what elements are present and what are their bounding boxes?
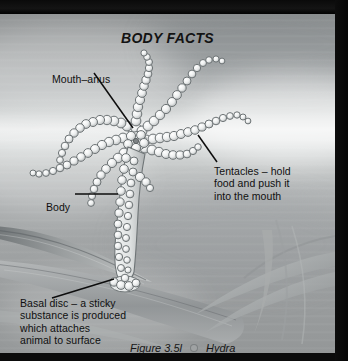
bullet-dot-icon <box>191 345 197 351</box>
label-body: Body <box>46 201 70 213</box>
frame-band-bottom <box>0 353 348 361</box>
label-tentacles: Tentacles – hold food and push it into t… <box>214 165 291 202</box>
frame-band-top <box>0 0 348 14</box>
frame-band-right <box>335 0 348 361</box>
figure-caption: Figure 3.5l Hydra <box>130 342 235 353</box>
figure-number: Figure 3.5l <box>130 342 182 353</box>
figure-subject: Hydra <box>206 342 235 353</box>
leader-line-tentacles <box>198 135 217 162</box>
leader-line-basal-disc <box>52 279 114 298</box>
label-basal-disc: Basal disc – a sticky substance is produ… <box>20 297 126 347</box>
photograph: BODY FACTS Mouth–anus Body Tentacles – h… <box>0 14 335 353</box>
figure-container: BODY FACTS Mouth–anus Body Tentacles – h… <box>0 0 348 361</box>
label-mouth-anus: Mouth–anus <box>52 73 110 85</box>
page-title: BODY FACTS <box>0 30 335 46</box>
